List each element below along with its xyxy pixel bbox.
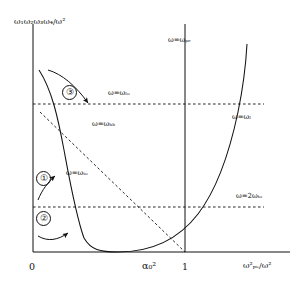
- curve-omega-l: [118, 44, 247, 252]
- x-tick-0: 0: [29, 262, 35, 272]
- curve-omega-to: [39, 70, 118, 252]
- branch-three-marker: ③: [62, 85, 77, 100]
- label-omega-pe: ω=ωₚₑ: [168, 37, 191, 44]
- branch-one-marker: ①: [36, 171, 51, 186]
- label-omega-lo: ω=ωₗₒ: [108, 90, 130, 97]
- x-axis-label: ω²ₚₑ/ω²: [243, 262, 271, 270]
- x-tick-1: 1: [182, 262, 188, 272]
- label-omega-l: ω=ωₗ: [232, 114, 251, 121]
- label-omega-hh: ω=ωₕₕ: [92, 121, 115, 128]
- figure-container: ω₁ω₂ω₃ω₄/ω² ω²ₚₑ/ω² 0 α₀² 1 ω=ωₗₒ ω=ωₚₑ …: [0, 0, 304, 300]
- label-2-omega-to: ω=2ωₜₒ: [236, 193, 262, 200]
- y-axis-label: ω₁ω₂ω₃ω₄/ω²: [14, 18, 65, 26]
- branch-two-marker: ②: [36, 211, 51, 226]
- dashed-line-omega-hh: [40, 112, 185, 252]
- branch-two-arrow: [38, 233, 68, 240]
- dispersion-plot: [0, 0, 304, 300]
- label-omega-to: ω=ωₜₒ: [66, 170, 88, 177]
- x-tick-alpha0-squared: α₀²: [142, 261, 156, 271]
